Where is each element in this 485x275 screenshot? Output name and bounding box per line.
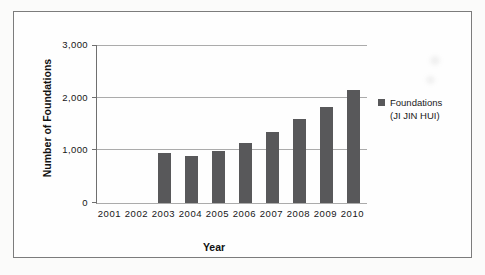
bar-2010 (347, 90, 360, 203)
y-tick (92, 202, 97, 203)
y-tick (92, 45, 97, 46)
gridline-2000 (97, 97, 367, 98)
x-tick-label: 2003 (150, 208, 177, 219)
y-tick (92, 149, 97, 150)
scan-artifact (426, 76, 435, 84)
x-tick-label: 2010 (339, 208, 366, 219)
legend-line-1: Foundations (390, 97, 442, 108)
x-tick-label: 2009 (312, 208, 339, 219)
y-tick-label: 0 (14, 197, 88, 208)
y-tick-label: 1,000 (14, 144, 88, 155)
y-tick-label: 2,000 (14, 92, 88, 103)
x-tick-label: 2007 (258, 208, 285, 219)
x-axis-title: Year (203, 241, 225, 253)
scan-artifact (430, 56, 440, 65)
legend: Foundations (JI JIN HUI) (378, 96, 442, 122)
bar-2008 (293, 119, 306, 203)
chart-frame: Number of Foundations 01,0002,0003,000 2… (13, 11, 472, 258)
gridline-3000 (97, 45, 367, 46)
y-tick-label: 3,000 (14, 39, 88, 50)
bar-2005 (212, 151, 225, 203)
legend-text: Foundations (JI JIN HUI) (390, 96, 442, 122)
plot-area (96, 45, 367, 204)
bar-2007 (266, 132, 279, 203)
legend-line-2: (JI JIN HUI) (390, 110, 440, 121)
x-tick-label: 2004 (177, 208, 204, 219)
bar-2009 (320, 107, 333, 203)
x-tick-label: 2008 (285, 208, 312, 219)
y-axis-title: Number of Foundations (41, 59, 53, 177)
x-tick-label: 2001 (96, 208, 123, 219)
x-tick-label: 2005 (204, 208, 231, 219)
bar-2003 (158, 153, 171, 203)
bar-2004 (185, 156, 198, 203)
bar-2006 (239, 143, 252, 203)
y-tick (92, 97, 97, 98)
x-tick-label: 2006 (231, 208, 258, 219)
x-tick-label: 2002 (123, 208, 150, 219)
page: { "chart_data": { "type": "bar", "title"… (0, 0, 485, 275)
legend-marker-icon (378, 99, 385, 106)
